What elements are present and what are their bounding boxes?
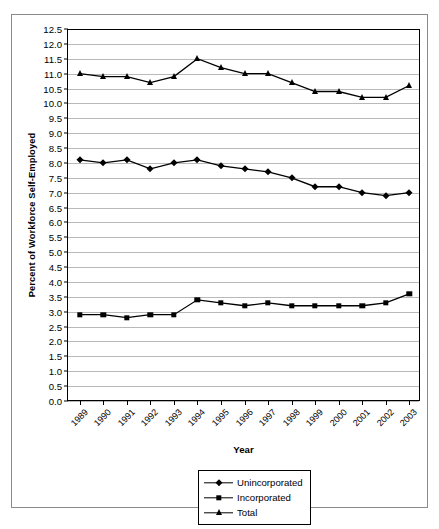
legend-item[interactable]: Total [204,505,303,520]
y-axis-tick-label: 2.0 [49,336,62,347]
y-axis-tick-label: 4.0 [49,276,62,287]
x-axis-tick-label: 1995 [210,407,231,428]
x-axis-tick-label: 1993 [163,407,184,428]
y-axis-tick-label: 11.0 [44,68,62,79]
y-axis-tick-label: 9.0 [49,128,62,139]
y-axis-tick-label: 1.5 [49,351,62,362]
y-axis-tick-label: 3.0 [49,306,62,317]
y-axis-tick-label: 6.5 [49,202,62,213]
data-point-marker-triangle [147,79,153,85]
y-axis-tick-label: 10.5 [43,83,62,94]
y-axis-tick-label: 2.5 [49,321,62,332]
data-point-marker-triangle [77,70,83,76]
x-axis-tick-label: 2003 [398,407,419,428]
x-axis-tick-label: 1991 [116,407,137,428]
y-axis-tick-label: 5.0 [49,247,62,258]
data-point-marker-square [242,303,247,308]
x-axis-tick-label: 1990 [92,407,113,428]
x-axis-tick-label: 2000 [327,407,348,428]
data-point-marker-square [77,312,82,317]
y-axis-tick-label: 8.5 [49,143,62,154]
legend-swatch-square-icon [204,492,233,504]
y-axis-tick-label: 8.0 [49,157,62,168]
plot-area: 0.00.51.01.52.02.53.03.54.04.55.05.56.06… [67,29,420,401]
data-point-marker-triangle [289,79,295,85]
data-point-marker-square [148,312,153,317]
legend-item[interactable]: Unincorporated [204,475,303,490]
data-point-marker-triangle [100,73,106,79]
data-point-marker-square [101,312,106,317]
gridline [68,401,419,402]
data-point-marker-triangle [312,88,318,94]
data-point-marker-square [359,303,364,308]
data-point-marker-square [124,315,129,320]
y-axis-tick-label: 1.0 [49,366,62,377]
x-axis-tick-label: 1989 [69,407,90,428]
x-axis-tick-label: 2002 [375,407,396,428]
y-axis-tick-label: 0.0 [49,396,62,407]
series-lines-group [68,29,421,401]
y-axis-tick-label: 12.0 [43,38,62,49]
x-axis-title: Year [67,444,420,455]
y-axis-tick-label: 5.5 [49,232,62,243]
y-axis-tick-label: 12.5 [43,24,62,35]
data-point-marker-triangle [336,88,342,94]
data-point-marker-triangle [124,73,130,79]
data-point-marker-square [195,297,200,302]
x-axis-tick-label: 1999 [304,407,325,428]
data-point-marker-triangle [406,82,412,88]
chart-figure-frame: Percent of Workforce Self-Employed 0.00.… [11,14,428,508]
data-point-marker-square [312,303,317,308]
legend-label: Total [237,507,257,518]
chart-legend: UnincorporatedIncorporatedTotal [198,470,311,525]
y-axis-tick-label: 10.0 [43,98,62,109]
legend-swatch-triangle-icon [204,507,233,519]
y-axis-tick-label: 0.5 [49,381,62,392]
legend-label: Unincorporated [237,477,303,488]
legend-swatch-diamond-icon [204,477,233,489]
data-point-marker-square [289,303,294,308]
data-point-marker-triangle [218,64,224,70]
data-point-marker-triangle [171,73,177,79]
legend-label: Incorporated [237,492,291,503]
y-axis-tick-label: 7.5 [49,172,62,183]
x-axis-tick-label: 1998 [280,407,301,428]
data-point-marker-square [171,312,176,317]
y-axis-title: Percent of Workforce Self-Employed [24,29,40,401]
y-axis-tick-label: 11.5 [44,53,62,64]
y-axis-title-text: Percent of Workforce Self-Employed [27,133,37,297]
x-axis-tick-label: 1997 [257,407,278,428]
data-point-marker-square [336,303,341,308]
data-point-marker-square [218,300,223,305]
data-point-marker-square [407,291,412,296]
legend-item[interactable]: Incorporated [204,490,303,505]
x-axis-tick-label: 1994 [186,407,207,428]
data-point-marker-square [265,300,270,305]
data-point-marker-triangle [265,70,271,76]
y-axis-tick-label: 7.0 [49,187,62,198]
data-point-marker-triangle [383,94,389,100]
data-point-marker-triangle [242,70,248,76]
y-axis-tick-label: 6.0 [49,217,62,228]
y-axis-tick-label: 3.5 [49,291,62,302]
data-point-marker-triangle [359,94,365,100]
x-axis-tick-label: 2001 [351,407,372,428]
y-axis-tick-label: 9.5 [49,113,62,124]
y-axis-tick-label: 4.5 [49,262,62,273]
data-point-marker-triangle [194,55,200,61]
data-point-marker-square [383,300,388,305]
x-axis-tick-label: 1992 [139,407,160,428]
x-axis-tick-label: 1996 [233,407,254,428]
